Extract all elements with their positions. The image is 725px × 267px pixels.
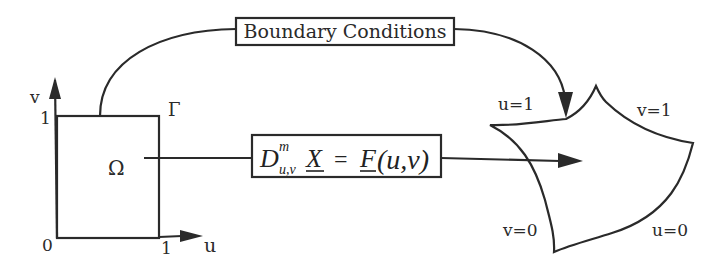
eq-D: D: [259, 144, 279, 173]
mapping-arrowhead-icon: [558, 153, 583, 168]
tick-u-1: 1: [161, 238, 172, 258]
u-axis: [159, 236, 182, 237]
surface-label-v0: v=0: [502, 220, 538, 240]
axis-v-label: v: [29, 87, 40, 107]
boundary-gamma-label: Γ: [168, 99, 181, 120]
surface-label-u0: u=0: [652, 220, 688, 240]
v-axis: [55, 80, 57, 238]
eq-subscript: u,v: [279, 162, 297, 177]
eq-equals: =: [334, 146, 348, 172]
eq-X: X: [305, 144, 323, 173]
eq-args: (u,v): [377, 144, 429, 175]
u-axis-arrowhead-icon: [180, 230, 203, 242]
boundary-conditions-label: Boundary Conditions: [244, 20, 447, 42]
mapping-diagram: v 1 0 1 u Γ Ω Boundary Conditions D m u,…: [0, 0, 725, 267]
eq-superscript: m: [279, 139, 289, 154]
surface-label-u1: u=1: [498, 94, 534, 114]
v-axis-arrowhead-icon: [49, 77, 61, 99]
domain-omega-label: Ω: [108, 156, 125, 180]
axis-u-label: u: [204, 234, 216, 256]
boundary-arrowhead-icon: [558, 92, 573, 118]
mapping-line-right: [441, 158, 560, 161]
boundary-connector-right: [454, 29, 565, 98]
origin-label: 0: [42, 235, 53, 255]
eq-F: F: [359, 144, 377, 173]
surface-label-v1: v=1: [636, 100, 672, 120]
tick-v-1: 1: [40, 108, 51, 128]
